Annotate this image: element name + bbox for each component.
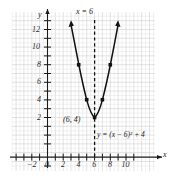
vertex-label: (6, 4)	[63, 116, 80, 124]
y-tick-label: 10	[32, 43, 40, 51]
x-tick-label: 6	[92, 161, 96, 169]
x-tick-label: 8	[108, 161, 112, 169]
data-point	[85, 98, 89, 102]
y-tick-label: 12	[32, 26, 40, 34]
y-axis	[44, 9, 51, 168]
data-point	[77, 63, 81, 67]
x-axis-label: x	[163, 151, 167, 159]
graph-figure: y x x = 6 (6, 4) y = (x − 6)² + 4 12 10 …	[0, 0, 176, 180]
data-point	[101, 98, 105, 102]
equation-label: y = (x − 6)² + 4	[97, 131, 145, 139]
parabola-plot	[0, 0, 176, 180]
axis-of-symmetry-label: x = 6	[76, 8, 93, 16]
x-tick-label: 4	[77, 161, 81, 169]
y-tick-label: 6	[37, 78, 41, 86]
x-tick-label: 10	[122, 161, 130, 169]
x-tick-label: 2	[61, 161, 65, 169]
data-point	[109, 63, 113, 67]
x-tick-label: −2	[27, 161, 36, 169]
x-tick-label: 0	[45, 161, 49, 169]
y-axis-label: y	[38, 11, 42, 19]
data-point	[93, 116, 97, 120]
y-tick-label: 2	[37, 114, 41, 122]
grid-lines	[12, 12, 155, 171]
y-tick-label: 8	[37, 61, 41, 69]
y-tick-label: 4	[37, 96, 41, 104]
